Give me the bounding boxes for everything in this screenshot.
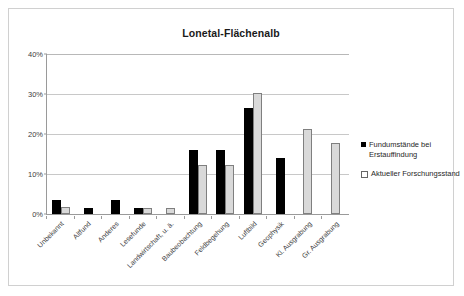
bar[interactable] bbox=[134, 208, 143, 214]
bar-group bbox=[239, 54, 266, 214]
y-axis-tick-label: 30% bbox=[28, 90, 43, 99]
bar-group bbox=[322, 54, 349, 214]
chart-legend: Fundumstände bei ErstauffindungAktueller… bbox=[361, 140, 461, 188]
x-axis-tick-label: Altfund bbox=[72, 220, 92, 240]
x-axis-tick: Gr. Ausgrabung bbox=[321, 216, 349, 286]
x-axis-tick-mark bbox=[184, 216, 185, 219]
bar-group bbox=[212, 54, 239, 214]
chart-title: Lonetal-Flächenalb bbox=[9, 27, 453, 39]
bar[interactable] bbox=[143, 208, 152, 214]
bar-group bbox=[294, 54, 321, 214]
bar[interactable] bbox=[52, 200, 61, 214]
legend-label: Aktueller Forschungsstand bbox=[371, 169, 460, 179]
x-axis-tick-mark bbox=[129, 216, 130, 219]
x-axis-tick-label: Unbekannt bbox=[36, 220, 65, 249]
bar[interactable] bbox=[198, 165, 207, 214]
x-axis-tick-mark bbox=[321, 216, 322, 219]
bar[interactable] bbox=[111, 200, 120, 214]
bar[interactable] bbox=[225, 165, 234, 214]
bar[interactable] bbox=[276, 158, 285, 214]
legend-item[interactable]: Fundumstände bei Erstauffindung bbox=[361, 140, 461, 160]
x-axis-tick-mark bbox=[46, 216, 47, 219]
x-axis-tick: Luftbild bbox=[239, 216, 267, 286]
legend-swatch-icon bbox=[361, 142, 366, 147]
x-axis-tick-mark bbox=[211, 216, 212, 219]
bar[interactable] bbox=[189, 150, 198, 214]
x-axis-tick-label: Luftbild bbox=[237, 220, 258, 241]
x-axis-tick: Altfund bbox=[74, 216, 102, 286]
bar-group bbox=[129, 54, 156, 214]
y-axis-tick-label: 10% bbox=[28, 170, 43, 179]
bar-group bbox=[47, 54, 74, 214]
bar-group bbox=[184, 54, 211, 214]
y-axis-tick-label: 40% bbox=[28, 50, 43, 59]
legend-label: Fundumstände bei Erstauffindung bbox=[369, 140, 461, 160]
x-axis-tick-mark bbox=[74, 216, 75, 219]
bar[interactable] bbox=[61, 207, 70, 214]
x-axis-tick: Unbekannt bbox=[46, 216, 74, 286]
bar-group bbox=[74, 54, 101, 214]
x-axis-tick-mark bbox=[156, 216, 157, 219]
bar-series-container bbox=[47, 54, 349, 214]
plot-area: 0%10%20%30%40% bbox=[46, 54, 349, 215]
chart-frame: Lonetal-Flächenalb 0%10%20%30%40% Unbeka… bbox=[8, 8, 454, 286]
x-axis-tick-mark bbox=[266, 216, 267, 219]
x-axis-tick-mark bbox=[294, 216, 295, 219]
y-axis-tick-label: 0% bbox=[32, 210, 43, 219]
bar[interactable] bbox=[216, 150, 225, 214]
bar[interactable] bbox=[166, 208, 175, 214]
x-axis-tick: Anderes bbox=[101, 216, 129, 286]
legend-swatch-icon bbox=[361, 171, 368, 178]
bar-group bbox=[157, 54, 184, 214]
bar[interactable] bbox=[303, 129, 312, 214]
x-axis-tick-mark bbox=[101, 216, 102, 219]
x-axis-tick: Feldbegehung bbox=[211, 216, 239, 286]
bar[interactable] bbox=[84, 208, 93, 214]
x-axis-labels: UnbekanntAltfundAnderesLesefundeLandwirt… bbox=[46, 216, 349, 286]
bar-group bbox=[102, 54, 129, 214]
bar-group bbox=[267, 54, 294, 214]
x-axis-tick-mark bbox=[239, 216, 240, 219]
y-axis-tick-label: 20% bbox=[28, 130, 43, 139]
bar[interactable] bbox=[253, 93, 262, 214]
bar[interactable] bbox=[244, 108, 253, 214]
legend-item[interactable]: Aktueller Forschungsstand bbox=[361, 169, 461, 179]
bar[interactable] bbox=[331, 143, 340, 214]
